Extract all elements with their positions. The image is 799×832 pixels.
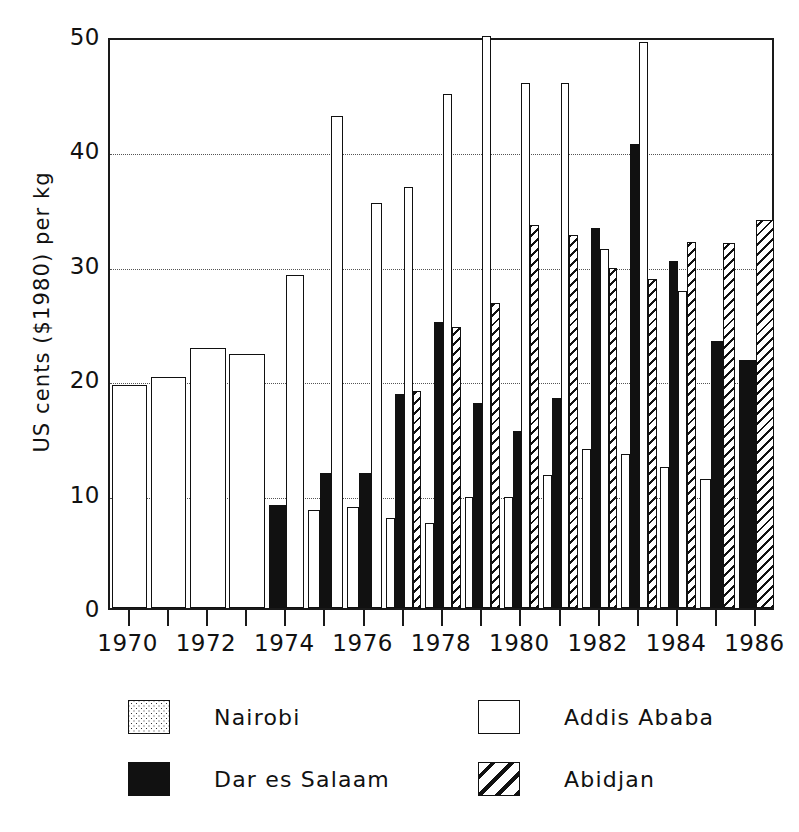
bar: [308, 510, 320, 608]
x-tick-label: 1972: [166, 630, 246, 656]
bar: [452, 327, 461, 608]
bar: [434, 322, 443, 608]
bar: [347, 507, 359, 608]
chart-figure: US cents ($1980) per kg 01020304050 1970…: [0, 0, 799, 832]
bar: [465, 497, 474, 608]
x-tick: [128, 610, 130, 626]
bar: [504, 497, 513, 608]
bar: [286, 275, 304, 608]
y-tick-label: 20: [44, 367, 100, 393]
bar: [639, 42, 648, 608]
x-tick: [715, 610, 717, 626]
x-tick-label: 1982: [558, 630, 638, 656]
bar: [491, 303, 500, 608]
bar: [561, 83, 570, 608]
bar: [660, 467, 669, 608]
legend-item: Addis Ababa: [478, 700, 714, 734]
bar: [552, 398, 561, 608]
x-tick: [559, 610, 561, 626]
x-tick-label: 1980: [479, 630, 559, 656]
bar: [530, 225, 539, 608]
bar: [320, 473, 332, 608]
bar: [151, 377, 186, 608]
bar: [723, 243, 735, 608]
chart-legend: NairobiAddis AbabaDar es SalaamAbidjan: [108, 690, 774, 810]
bar: [482, 36, 491, 608]
gridline: [110, 154, 772, 155]
bar: [331, 116, 343, 608]
x-tick-label: 1984: [636, 630, 716, 656]
legend-swatch-icon: [128, 762, 170, 796]
y-tick-label: 0: [44, 596, 100, 622]
bar: [669, 261, 678, 608]
bar: [359, 473, 371, 608]
x-tick: [323, 610, 325, 626]
x-tick: [245, 610, 247, 626]
bar: [543, 475, 552, 608]
bar: [621, 454, 630, 608]
x-axis-tick-labels: 197019721974197619781980198219841986: [108, 630, 774, 664]
x-tick: [206, 610, 208, 626]
bar: [190, 348, 225, 608]
x-tick-label: 1986: [714, 630, 794, 656]
x-tick: [598, 610, 600, 626]
legend-label: Dar es Salaam: [214, 767, 390, 792]
legend-swatch-icon: [478, 700, 520, 734]
legend-label: Nairobi: [214, 705, 301, 730]
x-tick: [402, 610, 404, 626]
x-tick: [167, 610, 169, 626]
x-tick: [284, 610, 286, 626]
x-tick: [754, 610, 756, 626]
bar: [371, 203, 383, 608]
x-tick-label: 1974: [244, 630, 324, 656]
legend-label: Abidjan: [564, 767, 655, 792]
legend-item: Dar es Salaam: [128, 762, 390, 796]
x-tick-label: 1978: [401, 630, 481, 656]
y-tick-label: 50: [44, 24, 100, 50]
bar: [425, 523, 434, 608]
bar: [395, 394, 404, 608]
y-tick-label: 40: [44, 138, 100, 164]
bar: [112, 385, 147, 608]
x-tick: [637, 610, 639, 626]
x-tick-label: 1976: [323, 630, 403, 656]
x-tick-label: 1970: [88, 630, 168, 656]
y-tick-label: 10: [44, 482, 100, 508]
bar: [678, 291, 687, 608]
legend-label: Addis Ababa: [564, 705, 714, 730]
bar: [386, 518, 395, 608]
bar: [229, 354, 264, 608]
bar: [443, 94, 452, 608]
x-axis-ticks: [108, 610, 774, 628]
bar: [687, 242, 696, 608]
x-tick: [480, 610, 482, 626]
y-axis-tick-labels: 01020304050: [36, 38, 100, 610]
x-tick: [676, 610, 678, 626]
bar: [630, 144, 639, 608]
bar: [404, 187, 413, 608]
bar: [711, 341, 723, 608]
bar: [521, 83, 530, 608]
legend-item: Nairobi: [128, 700, 301, 734]
legend-swatch-icon: [128, 700, 170, 734]
x-tick: [363, 610, 365, 626]
bar: [582, 449, 591, 608]
bar: [591, 228, 600, 608]
bar: [700, 479, 712, 608]
legend-swatch-icon: [478, 762, 520, 796]
bar: [269, 505, 287, 608]
bar: [739, 360, 757, 608]
bar: [569, 235, 578, 608]
bar: [513, 431, 522, 608]
bar: [756, 220, 774, 608]
bar: [648, 279, 657, 608]
bar: [600, 249, 609, 608]
legend-item: Abidjan: [478, 762, 655, 796]
bar: [473, 403, 482, 608]
x-tick: [519, 610, 521, 626]
plot-area: [108, 38, 774, 610]
x-tick: [441, 610, 443, 626]
bar: [609, 268, 618, 608]
bar: [413, 391, 422, 608]
y-tick-label: 30: [44, 253, 100, 279]
